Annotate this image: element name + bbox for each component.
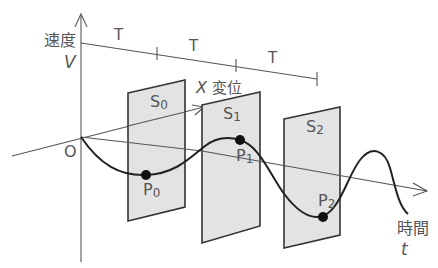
displacement-label: 変位 <box>212 79 242 97</box>
time-label: 時間 <box>397 219 429 238</box>
point-p1 <box>235 135 245 145</box>
origin-label: O <box>64 142 77 161</box>
point-p2 <box>318 212 328 222</box>
velocity-label: 速度 <box>44 31 76 50</box>
point-p0 <box>141 170 151 180</box>
velocity-symbol: V <box>64 52 77 72</box>
period-label-2: T <box>188 37 199 55</box>
time-symbol: t <box>401 239 409 259</box>
displacement-symbol: X <box>195 78 208 97</box>
phase-diagram: 速度 V T T T X 変位 O S0 S1 S2 P0 P1 P2 時間 t <box>0 0 438 268</box>
period-label-1: T <box>113 26 124 44</box>
period-label-3: T <box>267 49 278 67</box>
